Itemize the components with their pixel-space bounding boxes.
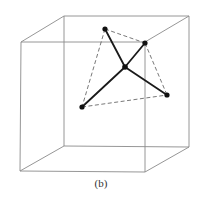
- cube-front-edge: [20, 171, 145, 172]
- bond-line: [82, 67, 125, 107]
- atom-top: [102, 26, 107, 31]
- cube-depth-edge: [20, 146, 64, 171]
- cube-back-edge: [64, 146, 189, 147]
- tetrahedron-edge: [82, 95, 167, 107]
- bond-line: [125, 43, 145, 67]
- cube-depth-edge: [145, 147, 189, 172]
- atom-upper-right: [142, 40, 147, 45]
- tetrahedral-cube-diagram: [0, 0, 202, 205]
- bond-line: [105, 29, 125, 67]
- cube-front-edge: [20, 42, 21, 171]
- atom-right: [164, 92, 169, 97]
- figure-caption: (b): [0, 177, 202, 189]
- cube-wireframe: [20, 16, 189, 172]
- atom-center: [122, 64, 128, 70]
- cube-depth-edge: [145, 16, 189, 42]
- cube-depth-edge: [21, 16, 64, 42]
- atom-bottom-left: [79, 104, 84, 109]
